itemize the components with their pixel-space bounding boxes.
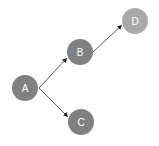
node-b[interactable]: B xyxy=(67,39,93,65)
node-c[interactable]: C xyxy=(68,109,94,135)
edge-a-to-b xyxy=(39,58,67,88)
node-a[interactable]: A xyxy=(12,75,38,101)
edge-b-to-d xyxy=(93,25,122,52)
node-d[interactable]: D xyxy=(122,8,148,34)
edges xyxy=(39,25,122,117)
node-b-label: B xyxy=(77,47,84,58)
node-c-label: C xyxy=(77,117,84,128)
node-a-label: A xyxy=(22,83,29,94)
edge-a-to-c xyxy=(39,88,68,117)
graph-canvas: A B C D xyxy=(0,0,159,146)
node-d-label: D xyxy=(131,16,138,27)
